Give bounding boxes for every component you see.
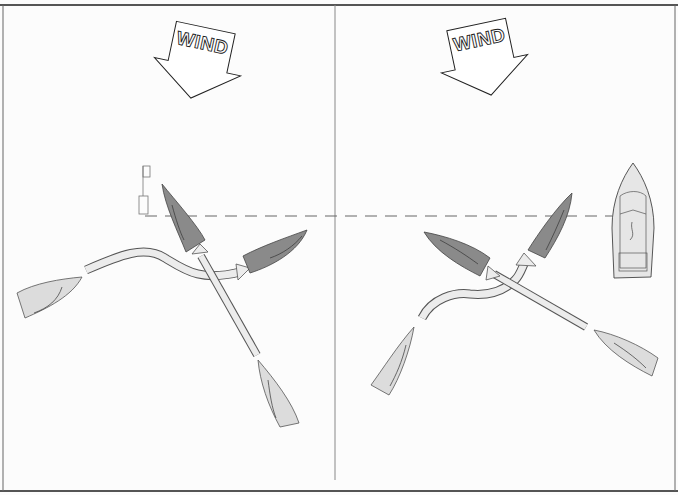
diagram-canvas: WIND WIND bbox=[0, 0, 678, 495]
light-sailboat-icon bbox=[371, 327, 414, 395]
dark-sailboat-icon bbox=[162, 184, 205, 252]
dark-sailboat-icon bbox=[424, 232, 490, 276]
committee-boat-icon bbox=[612, 163, 654, 278]
dark-sailboat-icon bbox=[528, 193, 572, 258]
mark-buoy-icon bbox=[139, 166, 150, 214]
light-sailboat-icon bbox=[258, 360, 299, 427]
sailing-diagram: WIND WIND bbox=[0, 0, 678, 495]
dark-sailboat-icon bbox=[243, 230, 307, 273]
light-sailboat-icon bbox=[17, 277, 82, 318]
wind-arrow-icon: WIND bbox=[148, 18, 249, 107]
curved-course-arrow bbox=[86, 252, 250, 280]
straight-course-arrow bbox=[486, 266, 586, 327]
light-sailboat-icon bbox=[594, 330, 658, 376]
wind-arrow-icon: WIND bbox=[433, 15, 534, 104]
